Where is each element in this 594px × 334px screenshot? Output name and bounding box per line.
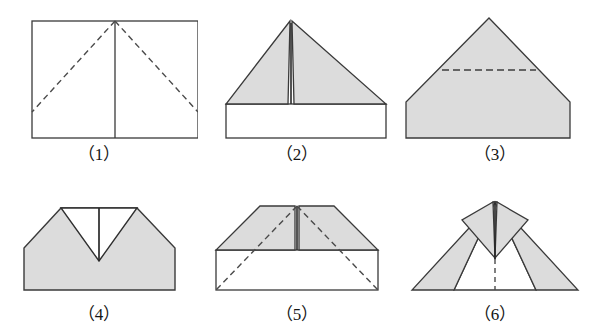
caption-step-5: （5）: [198, 306, 396, 323]
left-trapezoid-half: [216, 206, 295, 250]
figure-step-1: [0, 0, 198, 146]
figure-step-4: [0, 160, 198, 306]
step-4-drawing: [0, 160, 198, 306]
figure-step-3: [396, 0, 594, 146]
right-folded-flap: [292, 21, 386, 104]
left-folded-flap: [226, 21, 290, 104]
figure-step-5: [198, 160, 396, 306]
step-1-drawing: [0, 0, 198, 146]
step-2-drawing: [198, 0, 396, 146]
figure-sheet: （1） （2） （3）: [0, 0, 594, 334]
figure-step-2: [198, 0, 396, 146]
pentagon-body: [406, 18, 570, 138]
step-3-drawing: [396, 0, 594, 146]
step-6-drawing: [396, 160, 594, 306]
body-rectangle: [226, 104, 386, 138]
body-rectangle: [216, 250, 378, 290]
figure-step-6: [396, 160, 594, 306]
caption-step-6: （6）: [396, 306, 594, 323]
caption-step-4: （4）: [0, 306, 198, 323]
right-trapezoid-half: [299, 206, 378, 250]
step-5-drawing: [198, 160, 396, 306]
